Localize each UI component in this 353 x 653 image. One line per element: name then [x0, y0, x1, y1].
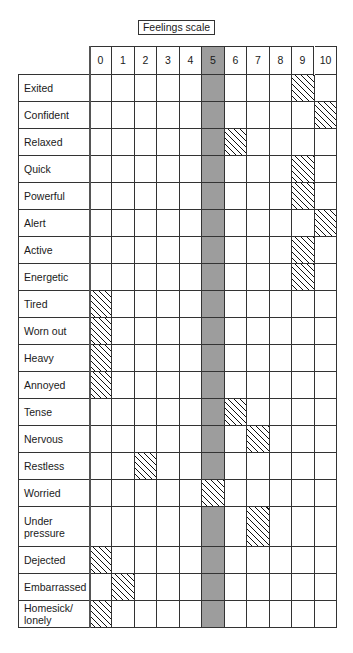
- scale-cell[interactable]: [180, 372, 202, 399]
- marked-cell[interactable]: [90, 601, 112, 628]
- marked-cell[interactable]: [292, 75, 315, 102]
- scale-cell[interactable]: [292, 547, 315, 574]
- scale-cell[interactable]: [112, 507, 135, 547]
- scale-cell[interactable]: [112, 426, 135, 453]
- scale-cell[interactable]: [157, 156, 180, 183]
- scale-cell[interactable]: [157, 480, 180, 507]
- scale-cell[interactable]: [157, 183, 180, 210]
- scale-cell[interactable]: [112, 75, 135, 102]
- scale-cell[interactable]: [315, 156, 337, 183]
- scale-cell[interactable]: [112, 547, 135, 574]
- scale-cell[interactable]: [202, 75, 225, 102]
- scale-cell[interactable]: [315, 183, 337, 210]
- scale-cell[interactable]: [112, 129, 135, 156]
- scale-cell[interactable]: [157, 129, 180, 156]
- scale-cell[interactable]: [157, 507, 180, 547]
- scale-cell[interactable]: [225, 318, 247, 345]
- scale-cell[interactable]: [135, 372, 157, 399]
- scale-cell[interactable]: [292, 372, 315, 399]
- scale-cell[interactable]: [135, 264, 157, 291]
- scale-cell[interactable]: [247, 547, 270, 574]
- scale-cell[interactable]: [90, 237, 112, 264]
- scale-cell[interactable]: [157, 345, 180, 372]
- marked-cell[interactable]: [135, 453, 157, 480]
- scale-cell[interactable]: [292, 574, 315, 601]
- scale-cell[interactable]: [180, 264, 202, 291]
- scale-cell[interactable]: [90, 426, 112, 453]
- scale-cell[interactable]: [292, 399, 315, 426]
- scale-cell[interactable]: [270, 264, 292, 291]
- scale-cell[interactable]: [292, 601, 315, 628]
- scale-cell[interactable]: [90, 264, 112, 291]
- scale-cell[interactable]: [292, 453, 315, 480]
- scale-cell[interactable]: [157, 291, 180, 318]
- marked-cell[interactable]: [292, 156, 315, 183]
- scale-cell[interactable]: [270, 129, 292, 156]
- scale-cell[interactable]: [225, 237, 247, 264]
- scale-cell[interactable]: [90, 399, 112, 426]
- scale-cell[interactable]: [225, 426, 247, 453]
- scale-cell[interactable]: [112, 399, 135, 426]
- scale-cell[interactable]: [270, 237, 292, 264]
- scale-cell[interactable]: [112, 102, 135, 129]
- scale-cell[interactable]: [247, 372, 270, 399]
- scale-cell[interactable]: [112, 601, 135, 628]
- scale-cell[interactable]: [292, 426, 315, 453]
- scale-cell[interactable]: [90, 183, 112, 210]
- marked-cell[interactable]: [292, 183, 315, 210]
- scale-cell[interactable]: [157, 75, 180, 102]
- scale-cell[interactable]: [225, 210, 247, 237]
- scale-cell[interactable]: [225, 453, 247, 480]
- scale-cell[interactable]: [225, 264, 247, 291]
- scale-cell[interactable]: [112, 372, 135, 399]
- scale-cell[interactable]: [225, 480, 247, 507]
- scale-cell[interactable]: [157, 237, 180, 264]
- scale-cell[interactable]: [270, 372, 292, 399]
- scale-cell[interactable]: [247, 156, 270, 183]
- scale-cell[interactable]: [270, 480, 292, 507]
- marked-cell[interactable]: [292, 264, 315, 291]
- scale-cell[interactable]: [292, 507, 315, 547]
- scale-cell[interactable]: [247, 291, 270, 318]
- scale-cell[interactable]: [135, 426, 157, 453]
- scale-cell[interactable]: [292, 291, 315, 318]
- marked-cell[interactable]: [315, 210, 337, 237]
- scale-cell[interactable]: [135, 601, 157, 628]
- scale-cell[interactable]: [202, 264, 225, 291]
- scale-cell[interactable]: [315, 237, 337, 264]
- scale-cell[interactable]: [247, 102, 270, 129]
- scale-cell[interactable]: [202, 399, 225, 426]
- scale-cell[interactable]: [157, 601, 180, 628]
- marked-cell[interactable]: [247, 507, 270, 547]
- scale-cell[interactable]: [315, 480, 337, 507]
- scale-cell[interactable]: [270, 345, 292, 372]
- scale-cell[interactable]: [157, 372, 180, 399]
- scale-cell[interactable]: [112, 480, 135, 507]
- scale-cell[interactable]: [247, 453, 270, 480]
- scale-cell[interactable]: [135, 183, 157, 210]
- scale-cell[interactable]: [315, 426, 337, 453]
- scale-cell[interactable]: [135, 102, 157, 129]
- scale-cell[interactable]: [225, 156, 247, 183]
- scale-cell[interactable]: [202, 601, 225, 628]
- scale-cell[interactable]: [157, 318, 180, 345]
- scale-cell[interactable]: [202, 291, 225, 318]
- scale-cell[interactable]: [270, 183, 292, 210]
- scale-cell[interactable]: [112, 183, 135, 210]
- scale-cell[interactable]: [315, 453, 337, 480]
- scale-cell[interactable]: [180, 547, 202, 574]
- scale-cell[interactable]: [180, 601, 202, 628]
- scale-cell[interactable]: [202, 547, 225, 574]
- scale-cell[interactable]: [225, 547, 247, 574]
- scale-cell[interactable]: [315, 399, 337, 426]
- scale-cell[interactable]: [180, 291, 202, 318]
- scale-cell[interactable]: [135, 291, 157, 318]
- scale-cell[interactable]: [202, 345, 225, 372]
- scale-cell[interactable]: [270, 156, 292, 183]
- scale-cell[interactable]: [202, 507, 225, 547]
- scale-cell[interactable]: [315, 75, 337, 102]
- scale-cell[interactable]: [247, 318, 270, 345]
- scale-cell[interactable]: [90, 75, 112, 102]
- marked-cell[interactable]: [90, 345, 112, 372]
- scale-cell[interactable]: [202, 102, 225, 129]
